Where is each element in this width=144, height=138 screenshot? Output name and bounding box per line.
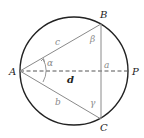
angle-label-beta: β <box>89 34 95 44</box>
point-label-a: A <box>8 66 16 77</box>
diameter-label: d <box>67 74 74 85</box>
angle-label-alpha: α <box>47 58 53 68</box>
point-label-b: B <box>99 9 107 20</box>
angle-label-gamma: γ <box>90 98 96 108</box>
side-c <box>20 24 101 71</box>
point-label-c: C <box>100 122 108 133</box>
side-label-a: a <box>104 60 109 70</box>
side-label-c: c <box>55 37 60 47</box>
side-label-b: b <box>55 97 61 107</box>
inscribed-triangle-diagram: A B C P c b a d α β γ <box>0 0 144 138</box>
point-label-p: P <box>131 66 139 77</box>
side-b <box>20 71 101 119</box>
